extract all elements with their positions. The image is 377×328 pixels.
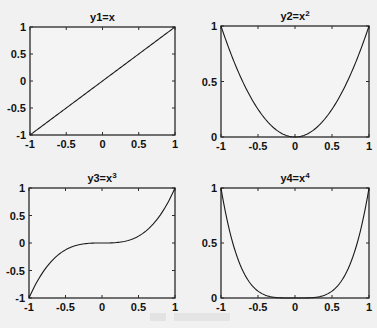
subplot-title: y1=x [90, 11, 116, 23]
x-tick-label: -1 [216, 301, 226, 313]
x-tick-label: 0.5 [324, 140, 339, 152]
y-tick-label: 0.5 [10, 210, 25, 222]
y-tick-label: 1 [20, 21, 26, 33]
y-tick-label: 0.5 [11, 48, 26, 60]
y-tick-label: -1 [16, 129, 26, 141]
x-tick-label: 0 [292, 140, 298, 152]
x-tick-label: 0.5 [131, 301, 146, 313]
y-tick-label: 0.5 [202, 237, 217, 249]
x-tick-label: -1 [24, 301, 34, 313]
x-tick-label: 0 [99, 301, 105, 313]
plot-area [221, 188, 369, 298]
x-tick-label: -0.5 [56, 301, 75, 313]
subplot-3: y3=x3-1-0.500.51-1-0.500.51 [6, 171, 178, 313]
x-tick-label: 1 [172, 301, 178, 313]
x-tick-label: -1 [216, 140, 226, 152]
y-tick-label: 0 [211, 131, 217, 143]
subplot-title: y4=x4 [280, 171, 310, 184]
x-tick-label: 1 [366, 301, 372, 313]
subplot-title: y3=x3 [87, 171, 117, 184]
subplot-4: y4=x4-1-0.500.5100.51 [202, 171, 372, 313]
y-tick-label: 0 [20, 75, 26, 87]
y-tick-label: 1 [19, 182, 25, 194]
x-tick-label: 1 [172, 138, 178, 150]
y-tick-label: -0.5 [6, 265, 25, 277]
figure: y1=x-1-0.500.51-1-0.500.51y2=x2-1-0.500.… [0, 0, 377, 328]
y-tick-label: 1 [211, 20, 217, 32]
y-tick-label: 1 [211, 182, 217, 194]
subplot-title: y2=x2 [280, 9, 310, 22]
subplot-2: y2=x2-1-0.500.5100.51 [202, 9, 372, 152]
x-tick-label: 1 [366, 140, 372, 152]
x-tick-label: 0.5 [324, 301, 339, 313]
y-tick-label: -0.5 [7, 102, 26, 114]
subplot-grid: y1=x-1-0.500.51-1-0.500.51y2=x2-1-0.500.… [0, 0, 377, 328]
figure-caption [150, 313, 230, 321]
x-tick-label: 0 [292, 301, 298, 313]
x-tick-label: -0.5 [249, 301, 268, 313]
y-tick-label: 0 [19, 237, 25, 249]
subplot-1: y1=x-1-0.500.51-1-0.500.51 [7, 11, 178, 150]
x-tick-label: 0.5 [131, 138, 146, 150]
x-tick-label: -1 [25, 138, 35, 150]
x-tick-label: -0.5 [249, 140, 268, 152]
y-tick-label: 0 [211, 292, 217, 304]
y-tick-label: -1 [15, 292, 25, 304]
x-tick-label: 0 [99, 138, 105, 150]
x-tick-label: -0.5 [57, 138, 76, 150]
y-tick-label: 0.5 [202, 76, 217, 88]
